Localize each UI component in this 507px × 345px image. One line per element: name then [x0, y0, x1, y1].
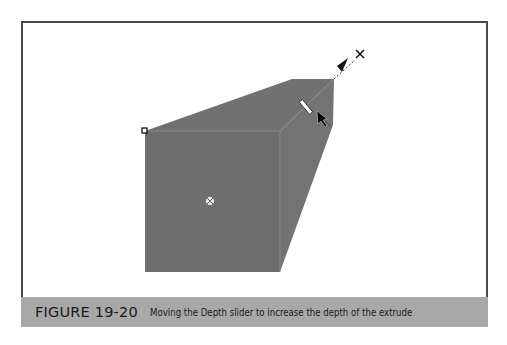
- center-marker-icon[interactable]: [206, 197, 215, 206]
- selection-handle[interactable]: [142, 128, 147, 133]
- figure-caption: Moving the Depth slider to increase the …: [150, 306, 412, 318]
- figure-label: FIGURE 19-20: [35, 304, 138, 320]
- vanishing-point-x-icon[interactable]: [356, 50, 364, 58]
- arrowhead-icon: [337, 58, 348, 72]
- caption-bar: FIGURE 19-20 Moving the Depth slider to …: [21, 297, 488, 327]
- drawing-canvas: [0, 0, 507, 345]
